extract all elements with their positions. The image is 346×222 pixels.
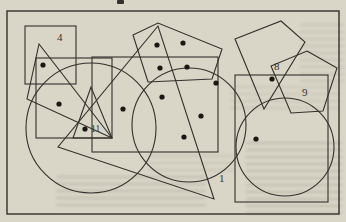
point-dot [184, 64, 189, 69]
right-rectangle-shape [235, 75, 328, 202]
point-dot [82, 126, 87, 131]
point-dot [157, 65, 162, 70]
large-triangle-1-shape [58, 26, 214, 199]
shape-label-9: 9 [302, 86, 308, 98]
shape-label-8: 8 [274, 60, 280, 72]
top-right-quadrilateral-shape [235, 21, 305, 109]
point-dot [40, 62, 45, 67]
textbook-page: 411891 [0, 0, 346, 222]
right-circle-shape [236, 98, 334, 196]
point-dot [213, 80, 218, 85]
shape-label-1: 1 [219, 172, 225, 184]
point-dot [56, 101, 61, 106]
middle-circle-shape [132, 68, 246, 182]
cropped-character-fragment [117, 0, 124, 4]
point-dot [154, 42, 159, 47]
point-dot [181, 134, 186, 139]
top-pentagon-shape [133, 23, 222, 82]
point-dot [120, 106, 125, 111]
point-dot [198, 113, 203, 118]
shape-label-4: 4 [57, 31, 63, 43]
shape-label-11: 11 [91, 124, 100, 134]
point-dot [253, 136, 258, 141]
left-rectangle-shape [36, 58, 112, 138]
point-dot [180, 40, 185, 45]
point-dot [269, 76, 274, 81]
point-dot [159, 94, 164, 99]
overlapping-shapes-figure: 411891 [0, 0, 346, 222]
